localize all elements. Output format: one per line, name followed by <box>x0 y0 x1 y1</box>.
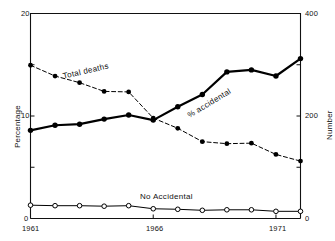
y2tick-label-0: 0 <box>305 214 309 223</box>
data-point <box>273 73 278 78</box>
data-point <box>28 128 33 133</box>
data-point <box>249 67 254 72</box>
data-point <box>77 203 82 208</box>
data-point <box>151 206 156 211</box>
xtick-label-1971: 1971 <box>269 224 287 233</box>
series-accidental <box>28 56 303 133</box>
data-point <box>126 203 131 208</box>
data-point <box>225 207 230 212</box>
data-point <box>175 207 180 212</box>
data-point <box>224 69 229 74</box>
data-point <box>126 90 131 95</box>
data-point <box>28 203 33 208</box>
data-point <box>151 116 156 121</box>
data-point <box>200 208 205 213</box>
data-point <box>102 204 107 209</box>
axis-frame <box>31 13 301 219</box>
data-point <box>175 104 180 109</box>
xtick-label-1961: 1961 <box>22 224 40 233</box>
data-point <box>175 126 180 131</box>
data-point <box>298 209 303 214</box>
data-point <box>224 141 229 146</box>
chart-plot-area <box>0 0 335 241</box>
data-point <box>102 89 107 94</box>
y-axis-title: Percentage <box>13 105 22 148</box>
y2tick-label-200: 200 <box>305 111 318 120</box>
data-point <box>53 74 58 79</box>
chart-figure: 20 10 0 400 200 0 1961 1966 1971 Percent… <box>0 0 335 241</box>
data-point <box>274 209 279 214</box>
data-point <box>298 56 303 61</box>
data-point <box>77 80 82 85</box>
data-point <box>101 116 106 121</box>
data-point <box>52 123 57 128</box>
data-point <box>200 92 205 97</box>
ytick-label-10: 10 <box>21 111 30 120</box>
data-point <box>298 159 303 164</box>
y2-axis-title: Number <box>325 110 334 140</box>
ytick-label-0: 0 <box>24 214 28 223</box>
data-point <box>200 139 205 144</box>
ytick-label-20: 20 <box>21 9 30 18</box>
xtick-label-1966: 1966 <box>146 224 164 233</box>
data-point <box>77 122 82 127</box>
data-point <box>249 141 254 146</box>
tick-marks <box>31 14 301 219</box>
data-point <box>53 203 58 208</box>
series-no-accidental <box>28 203 303 214</box>
data-point <box>28 63 33 68</box>
series-label-no-accidental: No Accidental <box>140 192 193 201</box>
series-line <box>31 205 301 211</box>
data-point <box>274 152 279 157</box>
y2tick-label-400: 400 <box>305 9 318 18</box>
data-point <box>126 112 131 117</box>
data-point <box>249 207 254 212</box>
